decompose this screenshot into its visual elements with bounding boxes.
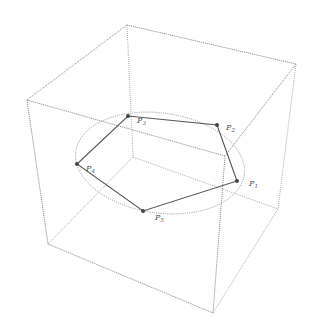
pentagon <box>77 116 237 211</box>
label-p1: P1 <box>248 179 258 189</box>
cube-pentagon-diagram: P1P2P3P4P5 <box>0 0 311 328</box>
cube-edge <box>213 156 225 313</box>
cube-edge <box>127 25 133 157</box>
vertex-p4 <box>75 162 79 166</box>
vertex-p5 <box>141 209 145 213</box>
pentagon-vertices <box>75 114 239 213</box>
cube-edge <box>213 209 278 313</box>
cube-edge <box>48 244 213 313</box>
vertex-p1 <box>235 179 239 183</box>
cube-edge <box>27 100 48 244</box>
label-p4: P4 <box>85 164 95 174</box>
cube-edge <box>127 25 296 64</box>
vertex-p3 <box>126 114 130 118</box>
cube-edge <box>278 64 296 209</box>
cube-edges <box>27 25 296 313</box>
cube-edge <box>27 25 127 100</box>
label-p5: P5 <box>154 213 164 223</box>
label-p2: P2 <box>225 123 235 133</box>
vertex-p2 <box>215 123 219 127</box>
cube-edge <box>225 64 296 156</box>
cube-edge <box>27 100 225 156</box>
